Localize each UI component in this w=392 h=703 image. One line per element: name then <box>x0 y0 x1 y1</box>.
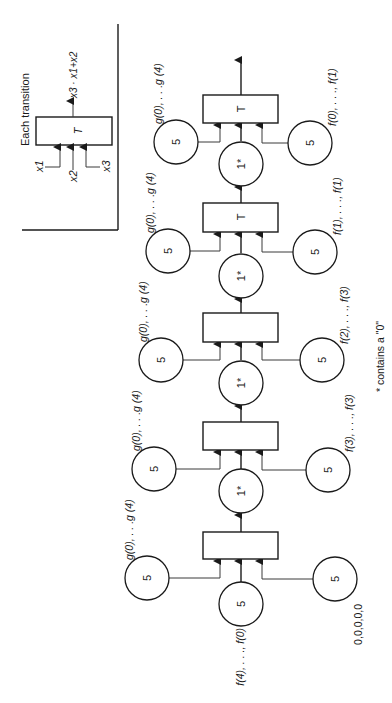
left-place-4-label: 5 <box>162 248 174 254</box>
right-place-5-label: 5 <box>304 140 316 146</box>
transition-t5-label: T <box>235 105 247 112</box>
arc-left5-to-t5 <box>198 125 220 142</box>
initial-place-annotation: f(4), . . ., f(0) <box>234 628 246 686</box>
legend-output-label: x3 · x1+x2 <box>68 51 79 99</box>
arc-left2-to-t2 <box>176 452 220 469</box>
arc-right3-to-t3 <box>262 344 300 360</box>
right-place-1-label: 5 <box>329 576 341 582</box>
arc-right4-to-t4 <box>262 234 293 252</box>
arc-left3-to-t3 <box>183 344 220 360</box>
transition-t2 <box>203 422 278 450</box>
legend-input-x1: x1 <box>33 160 45 173</box>
legend-title: Each transition <box>19 73 31 146</box>
left-place-4-annotation: g(0), . . .g (4) <box>144 172 156 233</box>
right-place-4-annotation: f(1), . . ., f(1) <box>331 177 343 235</box>
star-place-3-label: 1* <box>235 270 247 281</box>
left-place-1-label: 5 <box>141 575 153 581</box>
legend-input-x3: x3 <box>100 160 112 174</box>
right-place-2-label: 5 <box>322 467 334 473</box>
legend: Each transition T x1 x2 x3 x3 · x1+x2 <box>19 24 118 230</box>
right-place-5-annotation: f(0), . . ., f(1) <box>326 68 338 126</box>
footnote: * contains a "0" <box>374 321 386 392</box>
transition-t3 <box>203 313 278 342</box>
transition-t1 <box>203 532 278 559</box>
arc-right1-to-t1 <box>262 561 313 579</box>
legend-input-x1-arc <box>45 147 60 167</box>
arc-left4-to-t4 <box>190 234 220 251</box>
right-place-4-label: 5 <box>309 249 321 255</box>
petri-net-diagram: Each transition T x1 x2 x3 x3 · x1+x2 <box>0 0 392 703</box>
main-chain: T T 1* 1* 1* 1* 5 f(4), . . ., f(0) 5 g(… <box>123 60 364 686</box>
right-place-3-label: 5 <box>316 357 328 363</box>
left-place-1-annotation: g(0), . . .g (4) <box>123 499 135 560</box>
arc-right2-to-t2 <box>262 452 306 470</box>
left-place-5-annotation: g(0), . . .g (4) <box>152 63 164 124</box>
left-place-3-annotation: g(0), . . .g (4) <box>137 281 149 342</box>
arc-left1-to-t1 <box>169 561 220 578</box>
initial-place-label: 5 <box>235 601 247 607</box>
star-place-2-label: 1* <box>235 377 247 388</box>
legend-input-x2: x2 <box>67 170 79 183</box>
star-place-4-label: 1* <box>235 158 247 169</box>
right-place-2-annotation: f(3), . . ., f(3) <box>343 394 355 452</box>
left-place-3-label: 5 <box>155 357 167 363</box>
left-place-2-label: 5 <box>148 466 160 472</box>
legend-input-x3-arc <box>86 147 100 167</box>
transition-t4-label: T <box>235 213 247 220</box>
left-place-5-label: 5 <box>170 139 182 145</box>
left-place-2-annotation: g(0), . . .g (4) <box>130 390 142 451</box>
arc-right5-to-t5 <box>262 125 288 143</box>
right-place-1-annotation: 0,0,0,0,0 <box>352 604 364 645</box>
star-place-1-label: 1* <box>235 485 247 496</box>
right-place-3-annotation: f(2), . . ., f(3) <box>338 286 350 344</box>
